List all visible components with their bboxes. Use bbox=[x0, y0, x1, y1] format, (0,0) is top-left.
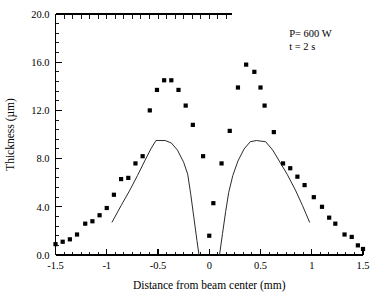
figure-container: 0.04.08.012.016.020.0-1.5-1-0.500.511.5 … bbox=[0, 0, 378, 304]
data-point-marker bbox=[263, 103, 267, 107]
y-tick-label: 8.0 bbox=[36, 153, 49, 164]
x-tick-label: 0 bbox=[207, 260, 212, 271]
data-point-marker bbox=[356, 243, 360, 247]
data-point-marker bbox=[320, 205, 324, 209]
x-tick-label: 0.5 bbox=[254, 260, 267, 271]
data-point-marker bbox=[119, 177, 123, 181]
data-point-marker bbox=[191, 123, 195, 127]
data-point-marker bbox=[148, 108, 152, 112]
data-point-marker bbox=[211, 201, 215, 205]
data-point-marker bbox=[176, 88, 180, 92]
x-tick-label: -1 bbox=[102, 260, 111, 271]
data-point-marker bbox=[244, 63, 248, 67]
data-point-marker bbox=[350, 235, 354, 239]
x-tick-label: 1.5 bbox=[356, 260, 369, 271]
data-point-marker bbox=[155, 88, 159, 92]
data-point-marker bbox=[272, 130, 276, 134]
data-point-marker bbox=[90, 219, 94, 223]
model-curve bbox=[112, 141, 199, 255]
data-point-marker bbox=[169, 78, 173, 82]
data-point-marker bbox=[162, 78, 166, 82]
data-point-marker bbox=[184, 103, 188, 107]
thickness-profile-chart: 0.04.08.012.016.020.0-1.5-1-0.500.511.5 … bbox=[0, 0, 378, 304]
data-point-marker bbox=[141, 154, 145, 158]
x-tick-label: -1.5 bbox=[47, 260, 64, 271]
data-point-marker bbox=[201, 154, 205, 158]
data-point-marker bbox=[219, 161, 223, 165]
axis-ticks bbox=[56, 14, 364, 255]
chart-annotations: P= 600 Wt = 2 s bbox=[289, 28, 332, 52]
y-tick-label: 16.0 bbox=[31, 57, 49, 68]
data-point-marker bbox=[53, 242, 57, 246]
y-tick-label: 4.0 bbox=[36, 202, 49, 213]
y-axis-title: Thickness (µm) bbox=[4, 98, 17, 171]
data-point-marker bbox=[83, 222, 87, 226]
axis-tick-labels: 0.04.08.012.016.020.0-1.5-1-0.500.511.5 bbox=[31, 9, 369, 271]
data-point-marker bbox=[236, 85, 240, 89]
data-point-marker bbox=[302, 183, 306, 187]
data-point-marker bbox=[258, 85, 262, 89]
x-axis-title: Distance from beam center (mm) bbox=[133, 279, 286, 292]
data-point-marker bbox=[361, 247, 365, 251]
data-point-marker bbox=[133, 161, 137, 165]
data-point-marker bbox=[126, 176, 130, 180]
model-curve bbox=[220, 141, 310, 255]
data-point-marker bbox=[295, 175, 299, 179]
data-point-marker bbox=[112, 193, 116, 197]
y-tick-label: 12.0 bbox=[31, 105, 49, 116]
chart-annotation: t = 2 s bbox=[289, 41, 315, 52]
data-point-marker bbox=[288, 166, 292, 170]
data-point-marker bbox=[327, 216, 331, 220]
data-point-marker bbox=[61, 240, 65, 244]
data-point-marker bbox=[281, 161, 285, 165]
axis-frame bbox=[56, 14, 364, 255]
data-point-marker bbox=[105, 206, 109, 210]
data-point-marker bbox=[333, 222, 337, 226]
data-points bbox=[53, 63, 365, 252]
data-point-marker bbox=[68, 237, 72, 241]
data-point-marker bbox=[312, 195, 316, 199]
data-point-marker bbox=[207, 234, 211, 238]
data-point-marker bbox=[252, 70, 256, 74]
x-tick-label: 1 bbox=[309, 260, 314, 271]
data-point-marker bbox=[75, 232, 79, 236]
y-tick-label: 20.0 bbox=[31, 9, 49, 20]
data-point-marker bbox=[97, 213, 101, 217]
data-point-marker bbox=[228, 129, 232, 133]
data-point-marker bbox=[342, 232, 346, 236]
x-tick-label: -0.5 bbox=[150, 260, 167, 271]
chart-annotation: P= 600 W bbox=[289, 28, 332, 39]
